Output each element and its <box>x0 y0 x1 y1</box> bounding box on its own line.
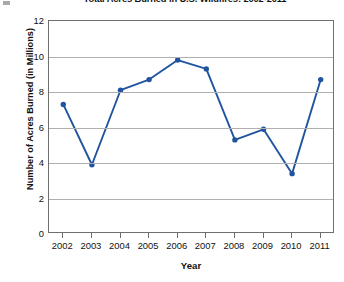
y-tick-label: 10 <box>10 50 44 61</box>
gridline <box>49 163 333 164</box>
x-tick <box>205 233 206 238</box>
data-point <box>318 77 323 82</box>
data-point <box>146 77 151 82</box>
chart-figure: Total Acres Burned in U.S. Wildfires: 20… <box>0 0 344 282</box>
chart-title: Total Acres Burned in U.S. Wildfires: 20… <box>40 0 330 5</box>
x-axis-tick-labels: 2002200320042005200620072008200920102011 <box>48 240 334 254</box>
data-line <box>63 60 320 174</box>
x-tick <box>91 233 92 238</box>
x-tick <box>291 233 292 238</box>
x-tick <box>177 233 178 238</box>
data-point <box>175 57 180 62</box>
x-tick <box>320 233 321 238</box>
x-axis-title: Year <box>48 260 334 271</box>
gridline <box>49 128 333 129</box>
y-tick-label: 6 <box>10 121 44 132</box>
y-tick-label: 8 <box>10 86 44 97</box>
y-tick-label: 12 <box>10 15 44 26</box>
gridline <box>49 92 333 93</box>
data-point <box>61 102 66 107</box>
x-tick-label: 2011 <box>300 240 340 251</box>
gridline <box>49 57 333 58</box>
x-tick <box>62 233 63 238</box>
x-axis-ticks <box>48 233 334 239</box>
x-tick <box>120 233 121 238</box>
data-point <box>232 137 237 142</box>
y-tick-label: 0 <box>10 228 44 239</box>
data-point <box>289 171 294 176</box>
gridline <box>49 199 333 200</box>
data-markers <box>61 57 324 176</box>
plot-area <box>48 20 334 233</box>
y-axis-tick-labels: 024681012 <box>8 20 44 233</box>
data-point <box>204 66 209 71</box>
scan-artifact-mark <box>3 1 10 5</box>
y-tick-label: 2 <box>10 192 44 203</box>
x-tick <box>148 233 149 238</box>
x-tick <box>234 233 235 238</box>
y-tick-label: 4 <box>10 157 44 168</box>
x-tick <box>263 233 264 238</box>
